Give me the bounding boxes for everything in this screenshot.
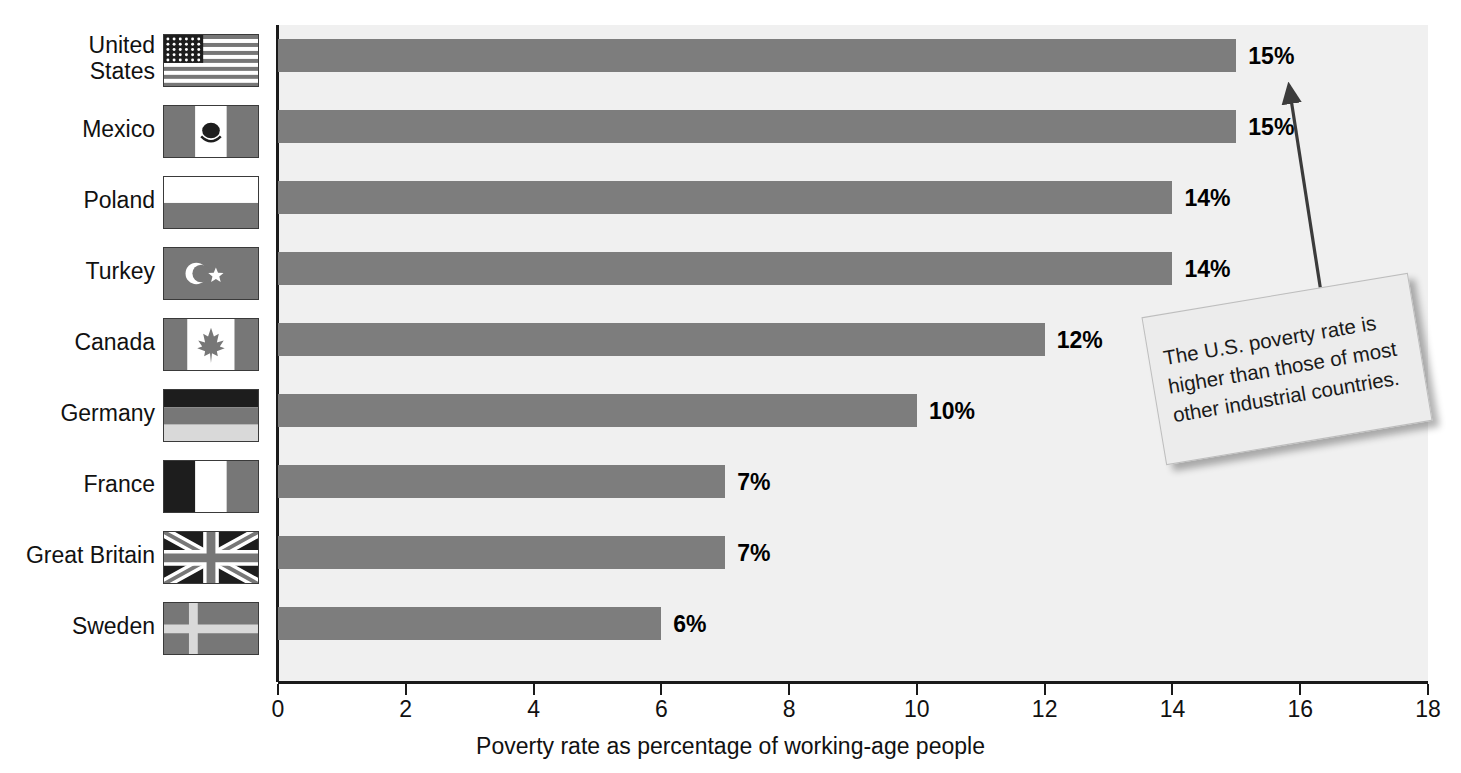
x-tick-label: 8 [783,696,796,723]
country-label-line: Canada [0,329,155,355]
x-axis-line [278,681,1428,684]
x-tick-label: 2 [399,696,412,723]
table-row: Sweden6% [0,593,1461,664]
bar-value-label: 15% [1248,43,1294,70]
country-label-line: France [0,471,155,497]
x-tick-label: 18 [1415,696,1441,723]
table-row: Great Britain7% [0,522,1461,593]
table-row: Mexico15% [0,96,1461,167]
flag-united-states-icon [163,34,259,87]
flag-sweden-icon [163,602,259,655]
bar [278,394,917,427]
chart-figure: UnitedStates15%Mexico15%Poland14%Turkey1… [0,0,1461,773]
country-label: Canada [0,329,155,355]
flag-germany-icon [163,389,259,442]
x-tick-label: 16 [1287,696,1313,723]
flag-poland-icon [163,176,259,229]
table-row: Poland14% [0,167,1461,238]
x-tick-mark [1427,684,1429,695]
bar [278,323,1045,356]
x-tick-mark [533,684,535,695]
country-label-line: States [0,58,155,84]
x-tick-label: 14 [1160,696,1186,723]
flag-great-britain-icon [163,531,259,584]
bar-value-label: 12% [1057,327,1103,354]
x-axis-title: Poverty rate as percentage of working-ag… [0,733,1461,760]
bar [278,39,1236,72]
country-label: France [0,471,155,497]
callout-note-text: The U.S. poverty rate is higher than tho… [1161,303,1416,429]
bar [278,181,1172,214]
country-label: Great Britain [0,542,155,568]
x-tick-mark [660,684,662,695]
flag-mexico-icon [163,105,259,158]
x-tick-label: 10 [904,696,930,723]
country-label: Germany [0,400,155,426]
x-tick-mark [1044,684,1046,695]
x-tick-label: 12 [1032,696,1058,723]
x-tick-label: 6 [655,696,668,723]
country-label-line: Turkey [0,258,155,284]
country-label-line: Sweden [0,613,155,639]
x-tick-mark [1299,684,1301,695]
table-row: France7% [0,451,1461,522]
country-label-line: Germany [0,400,155,426]
bar [278,110,1236,143]
country-label-line: United [0,32,155,58]
bar-value-label: 10% [929,398,975,425]
x-tick-mark [916,684,918,695]
flag-turkey-icon [163,247,259,300]
country-label: Poland [0,187,155,213]
x-tick-label: 4 [527,696,540,723]
country-label: Mexico [0,116,155,142]
bar [278,536,725,569]
flag-canada-icon [163,318,259,371]
bar-value-label: 15% [1248,114,1294,141]
x-tick-label: 0 [272,696,285,723]
country-label: Sweden [0,613,155,639]
country-label-line: Great Britain [0,542,155,568]
bar [278,465,725,498]
table-row: UnitedStates15% [0,25,1461,96]
x-tick-mark [1171,684,1173,695]
country-label: Turkey [0,258,155,284]
x-tick-mark [405,684,407,695]
country-label-line: Poland [0,187,155,213]
bar-value-label: 7% [737,469,770,496]
flag-france-icon [163,460,259,513]
country-label: UnitedStates [0,32,155,84]
bar [278,607,661,640]
x-tick-mark [788,684,790,695]
table-row: Turkey14% [0,238,1461,309]
bar [278,252,1172,285]
x-tick-mark [277,684,279,695]
bar-value-label: 6% [673,611,706,638]
bar-value-label: 14% [1184,185,1230,212]
country-label-line: Mexico [0,116,155,142]
bar-value-label: 7% [737,540,770,567]
bar-value-label: 14% [1184,256,1230,283]
